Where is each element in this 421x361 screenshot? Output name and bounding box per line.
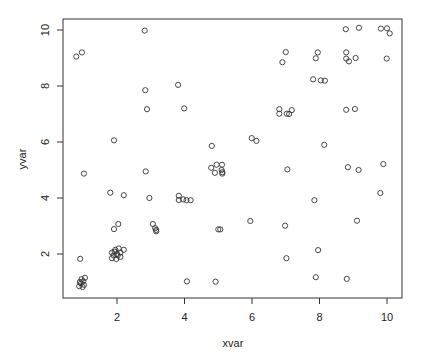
x-tick-label: 2 [114,311,120,323]
y-axis-title: yvar [16,148,28,169]
y-tick-label: 4 [39,195,51,201]
x-tick-label: 8 [316,311,322,323]
scatter-plot: 246810 246810 xvar yvar [0,0,421,361]
x-tick-label: 10 [381,311,393,323]
x-axis-title: xvar [223,337,244,349]
x-tick-label: 4 [181,311,187,323]
y-tick-label: 2 [39,251,51,257]
y-tick-label: 6 [39,139,51,145]
x-tick-label: 6 [249,311,255,323]
y-tick-label: 10 [39,24,51,36]
y-tick-label: 8 [39,83,51,89]
